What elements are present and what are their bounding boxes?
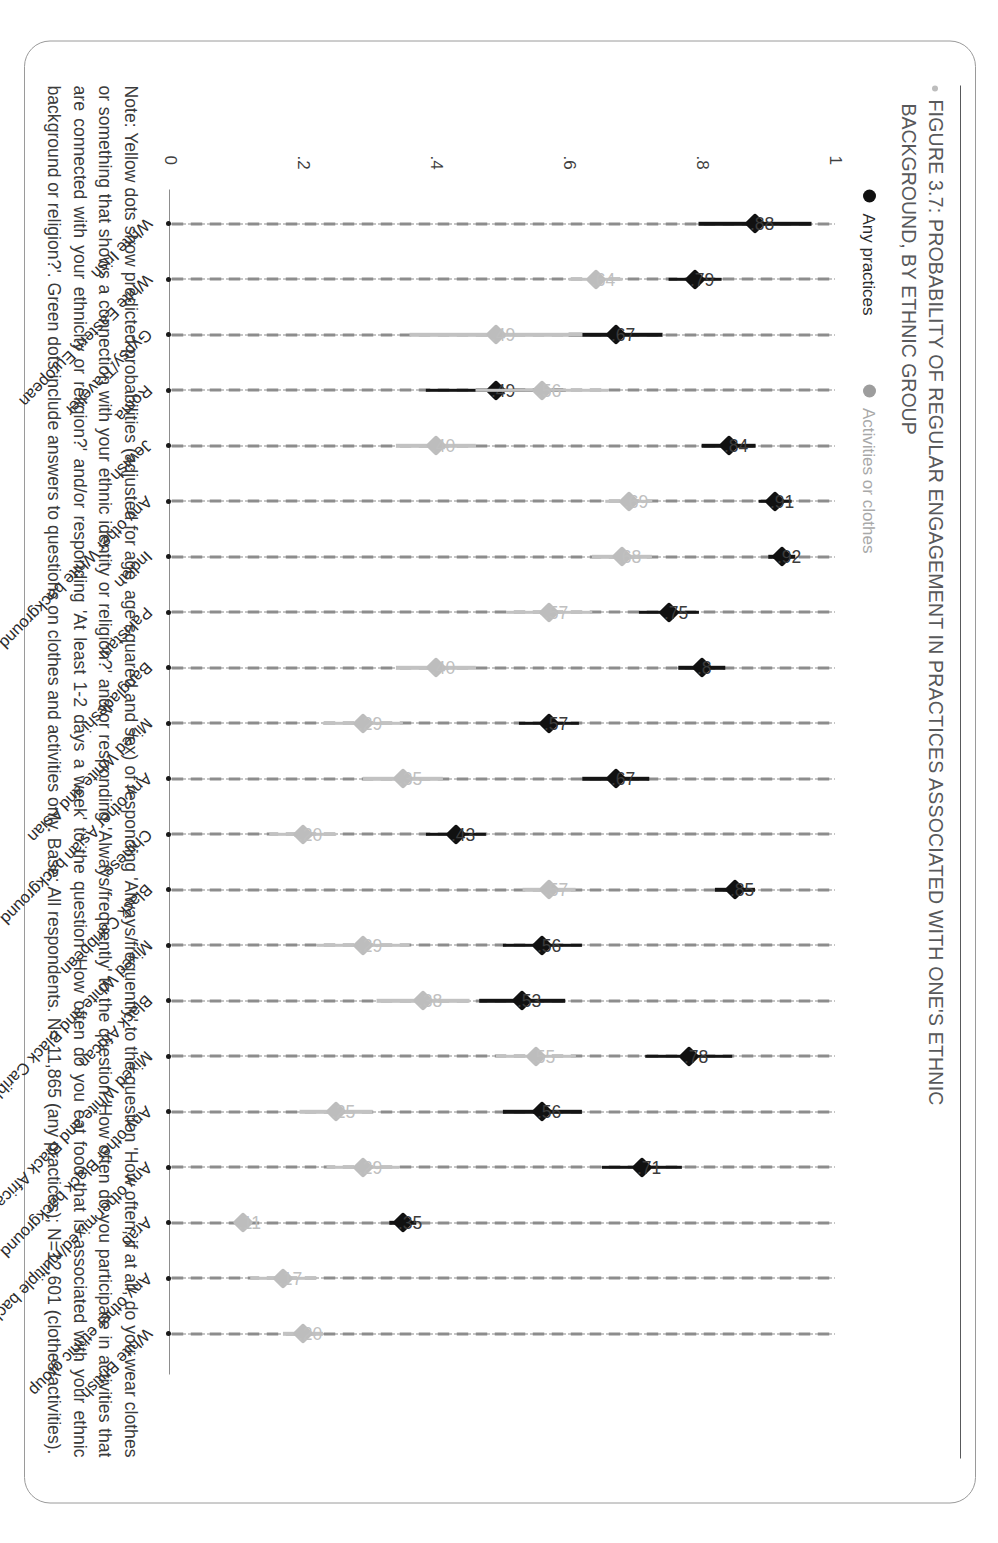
data-point-label: .38 (418, 990, 442, 1011)
gridline-dotted (170, 277, 835, 280)
data-point-label: .84 (724, 435, 748, 456)
gridline-dotted (170, 1165, 835, 1168)
data-point-label: .91 (770, 491, 794, 512)
data-point-label: .35 (398, 768, 422, 789)
y-axis-tick-label: 1 (825, 155, 845, 164)
data-point-label: .29 (358, 1157, 382, 1178)
y-axis-tick-label: .2 (293, 155, 313, 169)
y-axis-tick-label: .6 (559, 155, 579, 169)
x-axis-line (169, 189, 170, 1374)
data-point-label: .64 (591, 269, 615, 290)
data-point-label: .40 (431, 435, 455, 456)
data-point-label: .55 (531, 1046, 555, 1067)
bullet-dot-icon (932, 85, 938, 91)
legend-item-activities-or-clothes[interactable]: Activities or clothes (858, 384, 879, 554)
rotated-page: FIGURE 3.7: PROBABILITY OF REGULAR ENGAG… (0, 0, 998, 1543)
figure-header: FIGURE 3.7: PROBABILITY OF REGULAR ENGAG… (895, 85, 949, 1415)
data-point-label: .35 (398, 1212, 422, 1233)
data-point-label: .85 (730, 879, 754, 900)
data-point-label: .25 (331, 1101, 355, 1122)
data-point-label: .56 (537, 935, 561, 956)
category-tick-icon (167, 831, 172, 836)
header-divider (960, 85, 961, 1458)
data-point-label: .29 (358, 713, 382, 734)
gridline-dotted (170, 499, 835, 502)
gridline-dotted (170, 666, 835, 669)
category-tick-icon (167, 387, 172, 392)
data-point-label: .57 (544, 713, 568, 734)
category-tick-icon (167, 276, 172, 281)
data-point-label: .43 (451, 824, 475, 845)
gridline-dotted (170, 610, 835, 613)
legend-dot-dark-icon (863, 189, 876, 202)
gridline-dotted (170, 777, 835, 780)
figure-note: Note: Yellow dots show predicted probabi… (41, 85, 143, 1457)
data-point-label: .40 (431, 657, 455, 678)
data-point-label: .20 (298, 824, 322, 845)
category-tick-icon (167, 1053, 172, 1058)
category-tick-icon (167, 998, 172, 1003)
y-axis-tick-label: 0 (160, 155, 180, 164)
category-tick-icon (167, 554, 172, 559)
gridline-dotted (170, 555, 835, 558)
data-point-label: .56 (537, 1101, 561, 1122)
data-point-label: .57 (544, 879, 568, 900)
legend-label-any-practices: Any practices (859, 213, 878, 315)
category-tick-icon (167, 942, 172, 947)
legend-label-activities-or-clothes: Activities or clothes (859, 408, 878, 554)
data-point-label: .71 (637, 1157, 661, 1178)
category-tick-icon (167, 776, 172, 781)
data-point-label: .20 (298, 1323, 322, 1344)
data-point-label: .8 (697, 657, 712, 678)
y-axis-tick-label: .8 (692, 155, 712, 169)
data-point-label: .17 (278, 1268, 302, 1289)
category-tick-icon (167, 887, 172, 892)
data-point-label: .29 (358, 935, 382, 956)
figure-card: FIGURE 3.7: PROBABILITY OF REGULAR ENGAG… (24, 40, 976, 1503)
category-tick-icon (167, 1220, 172, 1225)
category-tick-icon (167, 1109, 172, 1114)
data-point-label: .11 (238, 1212, 261, 1233)
data-point-label: .88 (750, 213, 774, 234)
category-tick-icon (167, 1275, 172, 1280)
data-point-label: .57 (544, 602, 568, 623)
legend-item-any-practices[interactable]: Any practices (858, 189, 879, 315)
data-point-label: .67 (611, 324, 635, 345)
data-point-label: .79 (690, 269, 714, 290)
gridline-dotted (170, 721, 835, 724)
chart-plot-area: 0.2.4.6.81White IrishWhite Eastern Europ… (170, 189, 835, 1374)
category-tick-icon (167, 665, 172, 670)
data-point-label: .75 (664, 602, 688, 623)
data-point-label: .68 (617, 546, 641, 567)
data-point-label: .49 (491, 324, 515, 345)
category-tick-icon (167, 332, 172, 337)
gridline-dotted (170, 1221, 835, 1224)
data-point-label: .53 (517, 990, 541, 1011)
gridline-dotted (170, 1332, 835, 1335)
data-point-label: .69 (624, 491, 648, 512)
category-tick-icon (167, 720, 172, 725)
category-tick-icon (167, 443, 172, 448)
figure-title-line1: FIGURE 3.7: PROBABILITY OF REGULAR ENGAG… (925, 99, 947, 1105)
chart-canvas: 0.2.4.6.81White IrishWhite Eastern Europ… (170, 189, 835, 1374)
category-tick-icon (167, 221, 172, 226)
chart-legend: Any practices Activities or clothes (858, 189, 879, 617)
data-point-label: .56 (537, 380, 561, 401)
category-tick-icon (167, 609, 172, 614)
category-tick-icon (167, 498, 172, 503)
y-axis-tick-label: .4 (426, 155, 446, 169)
legend-dot-light-icon (863, 384, 876, 397)
figure-title-line2: BACKGROUND, BY ETHNIC GROUP (895, 103, 922, 1415)
data-point-label: .92 (777, 546, 801, 567)
data-point-label: .67 (611, 768, 635, 789)
category-tick-icon (167, 1164, 172, 1169)
data-point-label: .78 (684, 1046, 708, 1067)
category-tick-icon (167, 1331, 172, 1336)
